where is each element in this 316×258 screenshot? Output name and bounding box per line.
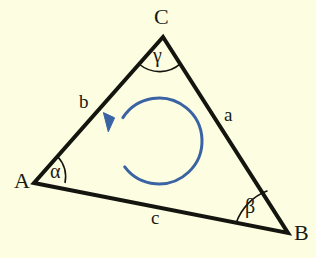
- angle-label-alpha: α: [50, 161, 60, 181]
- counterclockwise-arrow-arc: [123, 98, 202, 184]
- angle-label-beta: β: [245, 196, 255, 216]
- angle-label-gamma: γ: [153, 45, 162, 65]
- counterclockwise-arrow-head: [103, 113, 114, 132]
- vertex-label-c: C: [154, 6, 169, 28]
- side-label-b: b: [79, 92, 89, 111]
- vertex-label-b: B: [294, 222, 309, 244]
- side-label-c: c: [151, 208, 159, 227]
- vertex-label-a: A: [14, 170, 30, 192]
- triangle-figure: A B C a b c α β γ: [0, 0, 316, 258]
- side-label-a: a: [224, 105, 232, 124]
